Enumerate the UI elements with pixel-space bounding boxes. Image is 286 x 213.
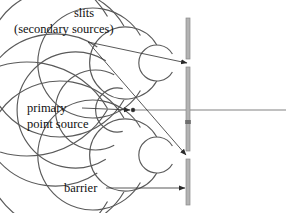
barrier-segment-top: [186, 18, 190, 59]
label-slits-line2: (secondary sources): [14, 22, 114, 36]
barrier-segment-middle: [186, 67, 190, 151]
diffraction-diagram-canvas: slits (secondary sources) primary point …: [0, 0, 286, 213]
label-slits-line1: slits: [74, 6, 94, 20]
label-primary-line1: primary: [27, 101, 67, 115]
label-primary-line2: point source: [27, 117, 89, 131]
barrier-group: [185, 18, 191, 205]
label-barrier: barrier: [64, 181, 98, 195]
lower-slit-wavelet-arc-1: [139, 137, 173, 173]
upper-slit-wavelet-arc-2: [90, 27, 157, 99]
slits-leader-lower-arrow: [88, 42, 186, 155]
barrier-axis-marker: [185, 120, 191, 124]
wave-diffraction-figure: slits (secondary sources) primary point …: [0, 0, 286, 213]
primary-point-source-dot: [131, 108, 135, 112]
slits-leader-upper-arrow: [88, 42, 187, 63]
upper-slit-wavelet-arc-1: [139, 45, 173, 81]
barrier-segment-bottom: [186, 159, 190, 205]
lower-slit-wavelet-arc-2: [90, 119, 157, 191]
